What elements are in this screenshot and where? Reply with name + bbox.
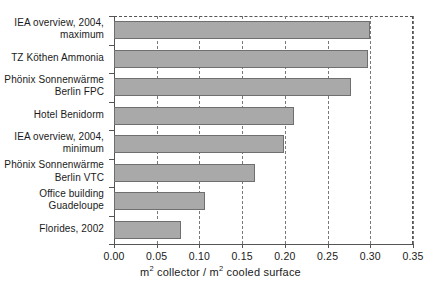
category-label: TZ Köthen Ammonia: [0, 52, 104, 65]
category-label: Office buildingGuadeloupe: [0, 188, 104, 213]
gridline-0.35: [413, 16, 414, 244]
category-label-line: Office building: [0, 188, 104, 201]
category-label: IEA overview, 2004,minimum: [0, 131, 104, 156]
category-label: IEA overview, 2004,maximum: [0, 17, 104, 42]
category-label: Phönix SonnenwärmeBerlin VTC: [0, 159, 104, 184]
category-label-line: Hotel Benidorm: [0, 109, 104, 122]
bar: [114, 164, 255, 182]
x-tick-0.05: [157, 244, 158, 248]
plot-frame-top: [114, 16, 413, 17]
x-tick-label-0.15: 0.15: [222, 250, 262, 262]
x-tick-label-0.20: 0.20: [265, 250, 305, 262]
bar: [114, 135, 284, 153]
x-axis-title: m2 collector / m2 cooled surface: [0, 266, 441, 278]
x-tick-0.15: [242, 244, 243, 248]
x-tick-0.30: [370, 244, 371, 248]
category-label-line: minimum: [0, 143, 104, 156]
category-label-line: Phönix Sonnenwärme: [0, 159, 104, 172]
bar: [114, 50, 368, 68]
y-tick: [109, 102, 114, 103]
x-tick-label-0.05: 0.05: [137, 250, 177, 262]
x-tick-0.25: [328, 244, 329, 248]
x-tick-label-0.30: 0.30: [350, 250, 390, 262]
category-label-line: maximum: [0, 29, 104, 42]
x-tick-label-0.10: 0.10: [179, 250, 219, 262]
category-label-line: TZ Köthen Ammonia: [0, 52, 104, 65]
x-tick-0.10: [199, 244, 200, 248]
y-tick: [109, 216, 114, 217]
category-label: Hotel Benidorm: [0, 109, 104, 122]
category-label-line: IEA overview, 2004,: [0, 17, 104, 30]
y-tick: [109, 130, 114, 131]
category-label: Phönix SonnenwärmeBerlin FPC: [0, 74, 104, 99]
y-tick: [109, 187, 114, 188]
bar: [114, 221, 181, 239]
category-label-line: Guadeloupe: [0, 200, 104, 213]
x-tick-label-0.25: 0.25: [308, 250, 348, 262]
bar: [114, 21, 370, 39]
x-tick-label-0.35: 0.35: [393, 250, 433, 262]
bar: [114, 78, 351, 96]
x-axis-line: [114, 244, 413, 245]
x-tick-0.00: [114, 244, 115, 248]
x-tick-0.35: [413, 244, 414, 248]
bar: [114, 107, 294, 125]
x-axis-title-part3: cooled surface: [223, 266, 301, 278]
x-axis-title-part2: collector / m: [154, 266, 219, 278]
bar: [114, 192, 205, 210]
gridline-0.30: [370, 16, 371, 244]
y-tick: [109, 45, 114, 46]
y-tick: [109, 73, 114, 74]
y-tick: [109, 159, 114, 160]
category-label-line: Florides, 2002: [0, 223, 104, 236]
y-tick: [109, 244, 114, 245]
category-label-line: Berlin FPC: [0, 86, 104, 99]
x-tick-0.20: [285, 244, 286, 248]
category-label-line: Phönix Sonnenwärme: [0, 74, 104, 87]
bar-chart: 0.000.050.100.150.200.250.300.35 IEA ove…: [0, 0, 441, 294]
category-label: Florides, 2002: [0, 223, 104, 236]
x-tick-label-0.00: 0.00: [94, 250, 134, 262]
category-label-line: IEA overview, 2004,: [0, 131, 104, 144]
y-tick: [109, 16, 114, 17]
category-label-line: Berlin VTC: [0, 172, 104, 185]
